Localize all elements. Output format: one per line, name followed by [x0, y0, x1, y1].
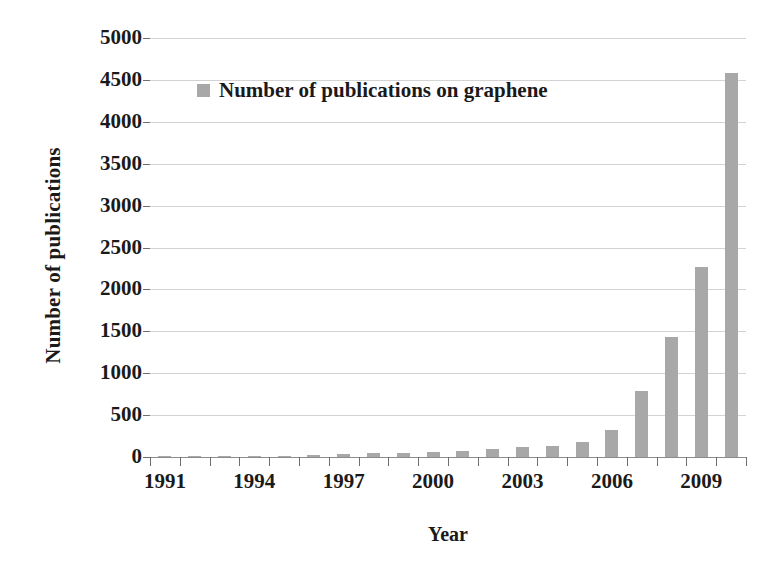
legend: Number of publications on graphene [197, 78, 548, 103]
y-axis-tick-label: 4500 [62, 69, 142, 90]
y-axis-tick-label: 500 [62, 404, 142, 425]
gridline [150, 373, 746, 374]
x-axis-tick [180, 457, 181, 466]
x-axis-tick-label: 2003 [484, 469, 562, 494]
y-axis-tick [143, 331, 150, 332]
legend-color-swatch [197, 84, 210, 97]
x-axis-tick [716, 457, 717, 466]
y-axis-tick [143, 248, 150, 249]
y-axis-tick-label: 1500 [62, 320, 142, 341]
y-axis-tick-label: 4000 [62, 111, 142, 132]
y-axis-tick [143, 80, 150, 81]
y-axis-tick-label: 5000 [62, 27, 142, 48]
x-axis-tick-label: 2009 [662, 469, 740, 494]
gridline [150, 415, 746, 416]
x-axis-tick [269, 457, 270, 466]
x-axis-tick [478, 457, 479, 466]
gridline [150, 206, 746, 207]
y-axis-tick-label: 3500 [62, 153, 142, 174]
x-axis-tick [150, 457, 151, 466]
x-axis-tick [448, 457, 449, 466]
x-axis-tick [686, 457, 687, 466]
x-axis-tick-label: 1991 [126, 469, 204, 494]
bar [546, 446, 559, 457]
gridline [150, 122, 746, 123]
x-axis-tick [657, 457, 658, 466]
y-axis-tick [143, 164, 150, 165]
y-axis-tick-label: 1000 [62, 362, 142, 383]
x-axis-tick [597, 457, 598, 466]
x-axis-tick [299, 457, 300, 466]
y-axis-tick-label: 2000 [62, 278, 142, 299]
y-axis-tick [143, 415, 150, 416]
x-axis-tick [359, 457, 360, 466]
y-axis-tick-label: 2500 [62, 237, 142, 258]
x-axis-tick [388, 457, 389, 466]
x-axis-tick-label: 1997 [305, 469, 383, 494]
bar [516, 447, 529, 457]
gridline [150, 164, 746, 165]
y-axis-tick [143, 122, 150, 123]
x-axis-tick [537, 457, 538, 466]
x-axis-tick-label: 2006 [573, 469, 651, 494]
x-axis-tick-label: 1994 [215, 469, 293, 494]
x-axis-tick [746, 457, 747, 466]
x-axis-tick [508, 457, 509, 466]
y-axis-tick [143, 206, 150, 207]
y-axis-tick [143, 38, 150, 39]
x-axis-title: Year [150, 523, 746, 546]
gridline [150, 248, 746, 249]
x-axis-tick [210, 457, 211, 466]
y-axis-tick-label: 3000 [62, 195, 142, 216]
publications-bar-chart: Number of publications 50004500400035003… [0, 0, 759, 568]
y-axis-tick-label: 0 [62, 446, 142, 467]
legend-label: Number of publications on graphene [219, 78, 548, 103]
y-axis-tick [143, 457, 150, 458]
x-axis-tick-labels: 1991199419972000200320062009 [150, 469, 746, 503]
bar [605, 430, 618, 457]
bar [635, 391, 648, 457]
bar [665, 337, 678, 457]
y-axis-tick-labels: 5000450040003500300025002000150010005000 [56, 38, 142, 457]
x-axis-tick [418, 457, 419, 466]
gridline [150, 38, 746, 39]
gridline [150, 331, 746, 332]
y-axis-tick [143, 373, 150, 374]
x-axis-tick [627, 457, 628, 466]
gridline [150, 289, 746, 290]
x-axis-tick-label: 2000 [394, 469, 472, 494]
y-axis-tick [143, 289, 150, 290]
bar [725, 73, 738, 457]
x-axis-tick [239, 457, 240, 466]
bar [486, 449, 499, 457]
bar [576, 442, 589, 457]
bar [695, 267, 708, 457]
x-axis-tick [329, 457, 330, 466]
x-axis-tick [567, 457, 568, 466]
